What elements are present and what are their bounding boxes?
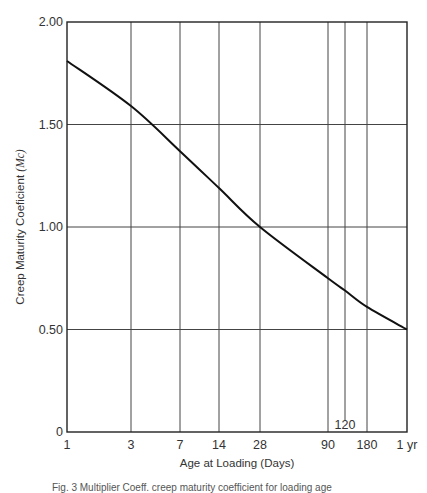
- grid-lines: [67, 22, 407, 432]
- y-axis-label-text: Creep Maturity Coeficient: [14, 174, 26, 305]
- x-tick-label: 1 yr: [397, 438, 418, 452]
- x-tick-label: 14: [212, 438, 226, 452]
- data-curve: [67, 61, 407, 330]
- y-tick-label: 0: [56, 425, 63, 439]
- figure-caption: Fig. 3 Multiplier Coeff. creep maturity …: [52, 482, 332, 493]
- x-axis-ticks: 1371428901201801 yr: [64, 418, 418, 452]
- x-tick-label: 3: [128, 438, 135, 452]
- y-axis-ticks: 00.501.001.502.00: [39, 15, 63, 439]
- y-axis-label: Creep Maturity Coeficient (Mc): [14, 149, 27, 304]
- x-tick-label: 1: [64, 438, 71, 452]
- y-tick-label: 0.50: [39, 323, 63, 337]
- x-tick-label: 120: [335, 418, 356, 432]
- x-tick-label: 180: [357, 438, 378, 452]
- y-tick-label: 1.00: [39, 220, 63, 234]
- y-tick-label: 1.50: [39, 118, 63, 132]
- y-axis-label-symbol: (Mc): [14, 149, 27, 172]
- x-tick-label: 90: [321, 438, 335, 452]
- y-tick-label: 2.00: [39, 15, 63, 29]
- x-tick-label: 7: [177, 438, 184, 452]
- x-tick-label: 28: [253, 438, 267, 452]
- x-axis-label: Age at Loading (Days): [180, 457, 295, 469]
